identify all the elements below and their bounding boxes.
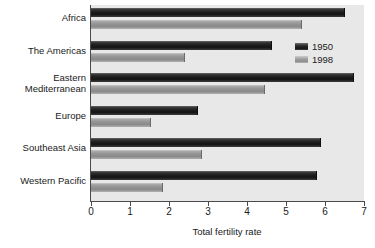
bar-1950-europe [91, 106, 198, 115]
fertility-rate-bar-chart: AfricaThe AmericasEastern MediterraneanE… [0, 0, 375, 248]
x-tick-label-3: 3 [196, 206, 220, 217]
category-label-europe: Europe [0, 110, 86, 121]
x-tick-label-7: 7 [352, 206, 375, 217]
category-label-eastern-mediterranean: Eastern Mediterranean [0, 72, 86, 94]
category-label-the-americas: The Americas [0, 45, 86, 56]
x-tick-label-4: 4 [235, 206, 259, 217]
bar-1950-eastern-mediterranean [91, 73, 354, 82]
bar-1998-africa [91, 20, 302, 29]
legend-label-1998: 1998 [312, 55, 333, 65]
bar-1998-western-pacific [91, 183, 163, 192]
bar-1950-western-pacific [91, 171, 317, 180]
x-tick-label-5: 5 [274, 206, 298, 217]
category-label-africa: Africa [0, 12, 86, 23]
legend-item-1950[interactable]: 1950 [295, 41, 333, 52]
bar-1998-southeast-asia [91, 150, 202, 159]
legend-swatch-1950-icon [295, 43, 308, 50]
bar-1998-the-americas [91, 53, 185, 62]
legend-swatch-1998-icon [295, 56, 308, 63]
x-axis-title: Total fertility rate [90, 226, 364, 237]
bar-1998-eastern-mediterranean [91, 85, 265, 94]
bar-1950-the-americas [91, 41, 272, 50]
x-tick-label-2: 2 [157, 206, 181, 217]
category-label-western-pacific: Western Pacific [0, 175, 86, 186]
legend-item-1998[interactable]: 1998 [295, 54, 333, 65]
bar-1998-europe [91, 118, 151, 127]
category-label-southeast-asia: Southeast Asia [0, 142, 86, 153]
x-tick-label-0: 0 [79, 206, 103, 217]
x-tick-label-1: 1 [118, 206, 142, 217]
bar-1950-southeast-asia [91, 138, 321, 147]
x-axis-line [90, 201, 364, 202]
legend-label-1950: 1950 [312, 42, 333, 52]
legend: 1950 1998 [293, 40, 335, 68]
x-tick-label-6: 6 [313, 206, 337, 217]
bar-1950-africa [91, 8, 345, 17]
